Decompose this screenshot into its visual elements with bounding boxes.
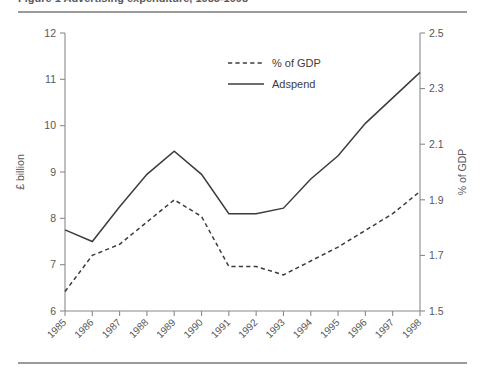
x-axis-tick-label: 1990: [181, 316, 205, 340]
y-axis-left-tick-label: 7: [50, 258, 56, 270]
divider-bottom: [18, 362, 467, 364]
x-axis-ticks: [65, 311, 420, 316]
chart-series-group: [65, 72, 420, 291]
x-axis-tick-label: 1992: [236, 316, 260, 340]
x-axis-tick-label: 1996: [345, 316, 369, 340]
y-axis-right-tick-label: 2.1: [429, 138, 444, 150]
x-axis-tick-label: 1986: [72, 316, 96, 340]
y-axis-left-ticks: [60, 33, 65, 311]
figure-caption-clip: Figure 1 Advertising expenditure, 1985-1…: [0, 0, 485, 9]
y-axis-left-tick-label: 8: [50, 212, 56, 224]
x-axis-tick-label: 1995: [318, 316, 342, 340]
y-axis-right-title: % of GDP: [456, 149, 468, 196]
chart-plot: 6789101112 1.51.71.92.12.32.5 1985198619…: [0, 14, 485, 360]
series-line-adspend: [65, 72, 420, 241]
y-axis-right-tick-label: 1.7: [429, 249, 444, 261]
y-axis-left-tick-label: 12: [44, 27, 56, 39]
chart-legend: % of GDPAdspend: [228, 57, 321, 90]
y-axis-right-tick-labels: 1.51.71.92.12.32.5: [429, 27, 444, 317]
x-axis-tick-label: 1987: [100, 316, 124, 340]
y-axis-right-tick-label: 2.3: [429, 82, 444, 94]
x-axis-tick-label: 1985: [45, 316, 69, 340]
x-axis-tick-label: 1994: [291, 316, 315, 340]
y-axis-right-tick-label: 1.9: [429, 194, 444, 206]
x-axis-tick-label: 1989: [154, 316, 178, 340]
y-axis-left-tick-label: 11: [45, 73, 56, 85]
chart-figure: 6789101112 1.51.71.92.12.32.5 1985198619…: [0, 14, 485, 360]
x-axis-tick-labels: 1985198619871988198919901991199219931994…: [45, 316, 424, 340]
y-axis-left-tick-label: 10: [44, 119, 56, 131]
legend-label: % of GDP: [272, 57, 321, 69]
y-axis-right-tick-label: 1.5: [429, 305, 444, 317]
x-axis-tick-label: 1998: [400, 316, 424, 340]
x-axis-tick-label: 1991: [209, 316, 233, 340]
y-axis-left-tick-label: 6: [50, 305, 56, 317]
y-axis-left-tick-label: 9: [50, 166, 56, 178]
series-line-of-gdp: [65, 191, 420, 291]
legend-label: Adspend: [272, 78, 315, 90]
x-axis-tick-label: 1993: [263, 316, 287, 340]
y-axis-left-tick-labels: 6789101112: [44, 27, 56, 317]
y-axis-left-title: £ billion: [14, 154, 26, 190]
y-axis-right-tick-label: 2.5: [429, 27, 444, 39]
divider-top: [18, 11, 467, 13]
figure-caption: Figure 1 Advertising expenditure, 1985-1…: [18, 0, 248, 4]
y-axis-right-ticks: [420, 33, 425, 311]
x-axis-tick-label: 1988: [127, 316, 151, 340]
x-axis-tick-label: 1997: [373, 316, 397, 340]
